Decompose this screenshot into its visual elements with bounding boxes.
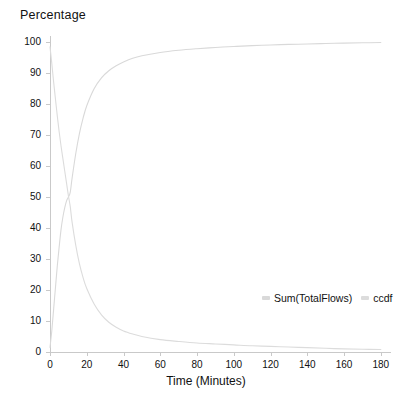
x-tick-label: 120: [251, 360, 291, 370]
legend-entry[interactable]: Sum(TotalFlows): [262, 292, 352, 304]
x-tick-mark: [160, 352, 161, 356]
x-tick-mark: [50, 352, 51, 356]
x-axis-title: Time (Minutes): [0, 374, 412, 388]
x-tick-label: 140: [287, 360, 327, 370]
x-tick-mark: [307, 352, 308, 356]
legend-label: ccdf: [373, 292, 392, 304]
plot-area: [50, 36, 390, 352]
series-layer: [50, 36, 390, 352]
x-tick-mark: [87, 352, 88, 356]
x-tick-mark: [344, 352, 345, 356]
y-tick-label: 0: [11, 347, 41, 357]
x-tick-label: 60: [140, 360, 180, 370]
x-tick-label: 160: [324, 360, 364, 370]
legend-swatch-icon: [361, 296, 369, 300]
legend-entry[interactable]: ccdf: [361, 292, 392, 304]
y-tick-label: 30: [11, 254, 41, 264]
x-tick-mark: [381, 352, 382, 356]
legend-label: Sum(TotalFlows): [274, 292, 352, 304]
x-tick-mark: [234, 352, 235, 356]
y-tick-label: 80: [11, 99, 41, 109]
y-tick-label: 50: [11, 192, 41, 202]
y-tick-label: 20: [11, 285, 41, 295]
x-tick-label: 80: [177, 360, 217, 370]
y-tick-label: 100: [11, 37, 41, 47]
x-tick-label: 0: [30, 360, 70, 370]
x-tick-mark: [124, 352, 125, 356]
legend-swatch-icon: [262, 296, 270, 300]
x-tick-label: 100: [214, 360, 254, 370]
y-tick-label: 90: [11, 68, 41, 78]
y-tick-label: 60: [11, 161, 41, 171]
chart-legend: Sum(TotalFlows)ccdf: [262, 292, 392, 304]
series-line: [50, 47, 381, 350]
x-tick-mark: [271, 352, 272, 356]
y-tick-label: 70: [11, 130, 41, 140]
x-tick-label: 180: [361, 360, 401, 370]
chart-container: Percentage 0102030405060708090100 020406…: [0, 0, 412, 408]
y-tick-label: 40: [11, 223, 41, 233]
chart-title: Percentage: [20, 8, 86, 22]
x-tick-label: 40: [104, 360, 144, 370]
x-tick-mark: [197, 352, 198, 356]
x-tick-label: 20: [67, 360, 107, 370]
y-tick-label: 10: [11, 316, 41, 326]
